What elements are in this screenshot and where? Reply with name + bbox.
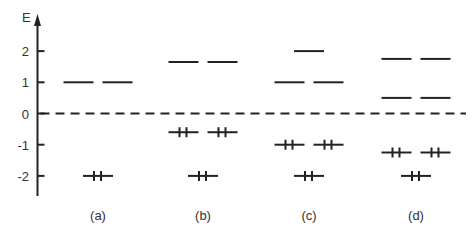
axis-arrowhead [34, 14, 41, 26]
panel-label: (a) [90, 208, 106, 223]
axis-ticks: 210-1-2 [17, 44, 44, 184]
tick-label: -2 [17, 169, 29, 184]
panel-label: (c) [301, 208, 316, 223]
panel-label: (d) [408, 208, 424, 223]
panel-labels: (a)(b)(c)(d) [90, 208, 424, 223]
panel-b [169, 62, 238, 181]
energy-level-diagram: E 210-1-2 (a)(b)(c)(d) [0, 0, 475, 235]
tick-label: 0 [22, 107, 29, 122]
energy-levels [64, 51, 451, 181]
panel-label: (b) [195, 208, 211, 223]
axis-label: E [22, 10, 31, 25]
tick-label: 2 [22, 44, 29, 59]
tick-label: 1 [22, 75, 29, 90]
panel-c [275, 51, 344, 181]
panel-a [64, 82, 133, 181]
panel-d [382, 59, 451, 181]
tick-label: -1 [17, 138, 29, 153]
